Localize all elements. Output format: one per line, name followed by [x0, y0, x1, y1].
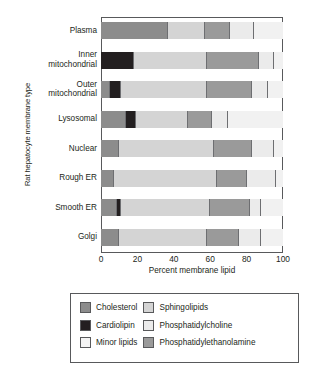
bar-segment-sphingolipids: [168, 22, 204, 39]
legend-item[interactable]: Sphingolipids: [143, 301, 255, 314]
bar-segment-phosphatidylethanolamine: [207, 229, 240, 246]
bar-segment-phosphatidylcholine: [239, 229, 261, 246]
bar-segment-cholesterol: [101, 199, 117, 216]
legend-column: CholesterolCardiolipinMinor lipids: [80, 301, 137, 349]
bar-segment-sphingolipids: [119, 140, 214, 157]
bar-segment-phosphatidylethanolamine: [210, 199, 250, 216]
bar-segment-minor-lipids: [261, 229, 283, 246]
bar-segment-cholesterol: [101, 170, 114, 187]
bar-segment-phosphatidylcholine: [252, 81, 268, 98]
legend-item[interactable]: Minor lipids: [80, 336, 137, 349]
category-label: Lysosomal: [1, 114, 97, 124]
bar-segment-phosphatidylethanolamine: [205, 22, 230, 39]
category-label-line: Rough ER: [1, 173, 97, 183]
bar-segment-sphingolipids: [121, 199, 210, 216]
legend-label: Cardiolipin: [96, 321, 135, 330]
bar-segment-phosphatidylcholine: [252, 140, 274, 157]
bar-segment-sphingolipids: [134, 52, 207, 69]
legend-swatch-icon: [80, 302, 91, 313]
legend-item[interactable]: Phosphatidylcholine: [143, 319, 255, 332]
bar-segment-phosphatidylcholine: [212, 111, 228, 128]
legend-label: Phosphatidylcholine: [159, 321, 232, 330]
bar-segment-minor-lipids: [268, 81, 283, 98]
bar-segment-cardiolipin: [126, 111, 135, 128]
bar-segment-phosphatidylethanolamine: [207, 52, 260, 69]
bar-segment-phosphatidylcholine: [230, 22, 254, 39]
bar-segment-phosphatidylcholine: [247, 170, 276, 187]
x-tick-label: 100: [268, 254, 298, 264]
bar-segment-phosphatidylcholine: [250, 199, 261, 216]
category-label: Golgi: [1, 232, 97, 242]
legend-swatch-icon: [143, 337, 154, 348]
legend-swatch-icon: [80, 320, 91, 331]
bar-segment-phosphatidylethanolamine: [188, 111, 212, 128]
x-axis-ticks: 020406080100: [101, 254, 283, 266]
bar-segment-cholesterol: [101, 81, 110, 98]
bar-segment-sphingolipids: [136, 111, 189, 128]
category-label-line: Golgi: [1, 232, 97, 242]
y-axis-title: Rat hepatocyte membrane type: [23, 50, 32, 220]
legend-item[interactable]: Phosphatidylethanolamine: [143, 336, 255, 349]
bar-segment-minor-lipids: [228, 111, 283, 128]
category-label: Plasma: [1, 26, 97, 36]
bar-segment-cardiolipin: [101, 52, 134, 69]
bar-segment-minor-lipids: [254, 22, 283, 39]
bar-segment-minor-lipids: [274, 140, 283, 157]
legend-label: Phosphatidylethanolamine: [159, 338, 255, 347]
stacked-bar: [101, 140, 283, 157]
bar-segment-phosphatidylethanolamine: [217, 170, 246, 187]
bar-segment-sphingolipids: [121, 81, 207, 98]
x-tick-label: 60: [195, 254, 225, 264]
stacked-bar: [101, 22, 283, 39]
legend-item[interactable]: Cholesterol: [80, 301, 137, 314]
stacked-bar: [101, 81, 283, 98]
bar-segment-cholesterol: [101, 111, 126, 128]
category-label-line: Outer: [1, 80, 97, 90]
bar-segment-minor-lipids: [274, 52, 283, 69]
x-axis-title: Percent membrane lipid: [101, 266, 283, 275]
category-label: Rough ER: [1, 173, 97, 183]
bar-segment-phosphatidylcholine: [259, 52, 274, 69]
stacked-bar: [101, 229, 283, 246]
legend-label: Sphingolipids: [159, 303, 208, 312]
category-label: Smooth ER: [1, 203, 97, 213]
bar-segment-sphingolipids: [114, 170, 218, 187]
x-tick-label: 0: [86, 254, 116, 264]
category-label: Innermitochondrial: [1, 50, 97, 69]
category-label-line: mitochondrial: [1, 89, 97, 99]
bar-segment-minor-lipids: [261, 199, 283, 216]
x-tick-label: 40: [159, 254, 189, 264]
category-label: Nuclear: [1, 144, 97, 154]
bar-segment-cholesterol: [101, 229, 119, 246]
x-tick-label: 80: [232, 254, 262, 264]
legend: CholesterolCardiolipinMinor lipidsSphing…: [70, 293, 299, 363]
bar-segment-cholesterol: [101, 140, 119, 157]
category-label-line: Smooth ER: [1, 203, 97, 213]
legend-swatch-icon: [80, 337, 91, 348]
legend-label: Minor lipids: [96, 338, 137, 347]
stacked-bar: [101, 199, 283, 216]
category-label: Outermitochondrial: [1, 80, 97, 99]
bar-segment-phosphatidylethanolamine: [207, 81, 253, 98]
legend-swatch-icon: [143, 302, 154, 313]
category-label-line: mitochondrial: [1, 60, 97, 70]
stacked-bar: [101, 52, 283, 69]
stacked-bar-chart-figure: Rat hepatocyte membrane type PlasmaInner…: [0, 0, 314, 377]
bar-segment-cardiolipin: [110, 81, 121, 98]
x-tick-label: 20: [122, 254, 152, 264]
bar-segment-phosphatidylethanolamine: [214, 140, 252, 157]
stacked-bar: [101, 170, 283, 187]
bar-segment-minor-lipids: [276, 170, 283, 187]
legend-label: Cholesterol: [96, 303, 137, 312]
legend-columns: CholesterolCardiolipinMinor lipidsSphing…: [80, 301, 298, 349]
category-label-line: Plasma: [1, 26, 97, 36]
legend-swatch-icon: [143, 320, 154, 331]
legend-column: SphingolipidsPhosphatidylcholinePhosphat…: [143, 301, 255, 349]
stacked-bar: [101, 111, 283, 128]
category-label-line: Lysosomal: [1, 114, 97, 124]
bar-segment-sphingolipids: [119, 229, 206, 246]
category-label-line: Nuclear: [1, 144, 97, 154]
category-label-line: Inner: [1, 50, 97, 60]
legend-item[interactable]: Cardiolipin: [80, 319, 137, 332]
bar-segment-cholesterol: [101, 22, 168, 39]
